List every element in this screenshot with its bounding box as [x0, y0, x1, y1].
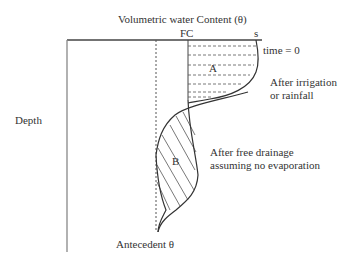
antecedent-label: Antecedent θ: [116, 238, 174, 250]
diagram-graphics: [0, 0, 349, 258]
time-zero-curve: [188, 40, 258, 103]
chart-title: Volumetric water Content (θ): [118, 13, 247, 25]
soil-moisture-diagram: Volumetric water Content (θ) FC s Depth …: [0, 0, 349, 258]
region-a-hatch: [188, 46, 256, 97]
region-b-label: B: [172, 155, 179, 167]
time-zero-label: time = 0: [263, 44, 300, 56]
region-a-label: A: [209, 62, 217, 74]
fc-label: FC: [180, 27, 193, 39]
after-irrigation-label-1: After irrigation: [270, 76, 337, 88]
after-drainage-label-2: assuming no evaporation: [210, 159, 320, 171]
after-drainage-label-1: After free drainage: [210, 146, 294, 158]
depth-label: Depth: [15, 114, 42, 126]
saturation-label: s: [254, 27, 258, 39]
after-irrigation-label-2: or rainfall: [270, 89, 314, 101]
